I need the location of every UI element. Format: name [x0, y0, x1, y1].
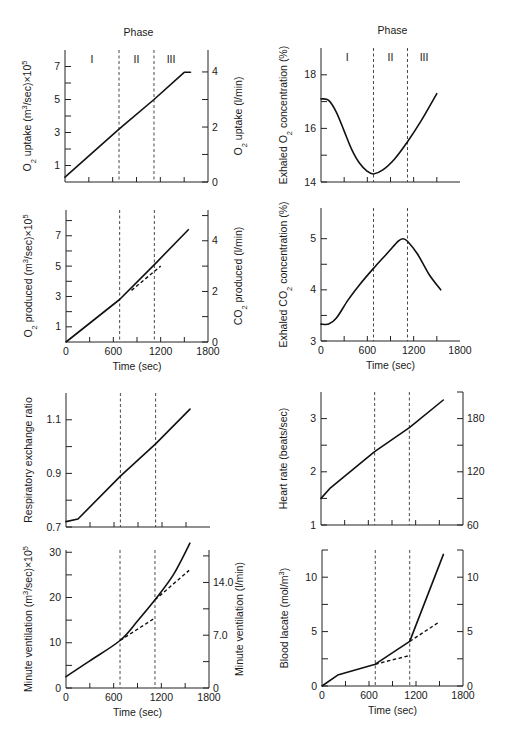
data-line [66, 409, 190, 521]
x-tick-label: 600 [105, 345, 123, 357]
y-axis-label: Respiratory exchange ratio [22, 397, 34, 523]
data-line [321, 94, 437, 174]
y-right-tick-label: 2 [212, 121, 218, 133]
chart-heart-rate: 12360120180Heart rate (beats/sec) [277, 392, 485, 531]
y-tick-label: 0 [311, 680, 317, 692]
x-axis-label: Time (sec) [368, 704, 417, 716]
x-tick-label: 600 [105, 691, 123, 703]
y-axis-label: O2 uptake (m3/sec)×105 [20, 61, 38, 172]
y-right-tick-label: 180 [467, 412, 485, 424]
y-axis-label: Heart rate (beats/sec) [277, 408, 289, 510]
data-line [66, 230, 188, 342]
data-line [321, 239, 441, 325]
phase-title: Phase [378, 24, 408, 36]
y-tick-label: 3 [310, 335, 316, 347]
y-tick-label: 5 [311, 625, 317, 637]
data-line [66, 543, 190, 676]
y-right-tick-label: 0 [212, 336, 218, 348]
chart-rer: 0.70.91.1Respiratory exchange ratio [22, 393, 210, 533]
y-tick-label: 1 [310, 519, 316, 531]
x-tick-label: 1200 [404, 689, 428, 701]
chart-minute-ventilation: 060012001800Time (sec)010203007.014.0Min… [21, 543, 246, 718]
y-right-tick-label: 2 [212, 285, 218, 297]
y-tick-label: 16 [304, 122, 316, 134]
y-right-tick-label: 5 [467, 625, 473, 637]
y-right-tick-label: 0 [467, 680, 473, 692]
extrapolation-line [132, 266, 161, 290]
x-tick-label: 0 [63, 691, 69, 703]
x-tick-label: 600 [360, 689, 378, 701]
extrapolation-line [155, 570, 189, 599]
x-tick-label: 0 [63, 345, 69, 357]
y-tick-label: 14 [304, 176, 316, 188]
x-tick-label: 600 [359, 344, 377, 356]
y-right-tick-label: 0 [213, 682, 219, 694]
y-right-tick-label: 0 [212, 176, 218, 188]
x-tick-label: 1200 [150, 691, 174, 703]
chart-exhaled-o2: 141618IIIIIIPhaseExhaled O2 concentratio… [277, 24, 460, 188]
y-right-tick-label: 14.0 [213, 576, 234, 588]
y-tick-label: 3 [54, 126, 60, 138]
x-tick-label: 0 [319, 689, 325, 701]
phase-label-I: I [346, 51, 349, 63]
x-tick-label: 1800 [448, 344, 472, 356]
y-right-tick-label: 120 [467, 465, 485, 477]
y-axis-label: O2 produced (m3/sec)×105 [21, 214, 39, 337]
phase-label-I: I [91, 53, 94, 65]
y-tick-label: 20 [49, 591, 61, 603]
phase-label-III: III [420, 51, 429, 63]
y-axis-right-label: CO2 produced (l/min) [232, 227, 249, 326]
chart-co2-produced: 060012001800Time (sec)1357024O2 produced… [21, 210, 249, 372]
y-axis-right-label: Minute ventilation (l/min) [233, 562, 245, 676]
y-tick-label: 5 [310, 232, 316, 244]
y-tick-label: 18 [304, 68, 316, 80]
y-right-tick-label: 4 [212, 65, 218, 77]
x-axis-label: Time (sec) [113, 706, 162, 718]
y-axis-label: Exhaled CO2 concentration (%) [277, 201, 294, 347]
y-tick-label: 1 [55, 320, 61, 332]
data-line [65, 72, 191, 177]
phase-title: Phase [124, 26, 154, 38]
chart-blood-lactate: 060012001800Time (sec)05100510Blood laca… [277, 550, 479, 716]
y-tick-label: 30 [49, 546, 61, 558]
y-right-tick-label: 60 [467, 519, 479, 531]
data-line [322, 554, 443, 686]
y-axis-right-label: O2 uptake (l/min) [232, 77, 249, 156]
y-tick-label: 3 [55, 290, 61, 302]
y-tick-label: 5 [54, 93, 60, 105]
y-tick-label: 7 [54, 60, 60, 72]
phase-label-III: III [167, 53, 176, 65]
y-tick-label: 5 [55, 260, 61, 272]
chart-exhaled-co2: 060012001800Time (sec)345Exhaled CO2 con… [277, 201, 472, 371]
y-tick-label: 1 [54, 159, 60, 171]
y-tick-label: 4 [310, 283, 316, 295]
y-axis-label: Exhaled O2 concentration (%) [277, 46, 294, 184]
physiology-exercise-figure: 1357024IIIIIIPhaseO2 uptake (m3/sec)×105… [0, 0, 506, 740]
y-tick-label: 10 [49, 636, 61, 648]
y-tick-label: 2 [310, 465, 316, 477]
y-tick-label: 0.9 [46, 467, 61, 479]
y-axis-label: Blood lacate (mol/m3) [277, 568, 291, 668]
data-line [321, 400, 443, 498]
x-axis-label: Time (sec) [366, 359, 415, 371]
y-right-tick-label: 4 [212, 234, 218, 246]
y-axis-label: Minute ventilation (m3/sec)×105 [21, 546, 35, 692]
y-tick-label: 0 [55, 682, 61, 694]
y-tick-label: 7 [55, 229, 61, 241]
phase-label-II: II [134, 53, 140, 65]
chart-o2-uptake: 1357024IIIIIIPhaseO2 uptake (m3/sec)×105… [20, 26, 249, 188]
phase-label-II: II [388, 51, 394, 63]
y-tick-label: 0.7 [46, 521, 61, 533]
y-right-tick-label: 10 [467, 571, 479, 583]
y-tick-label: 3 [310, 412, 316, 424]
y-tick-label: 1.1 [46, 413, 61, 425]
x-tick-label: 0 [318, 344, 324, 356]
x-tick-label: 1200 [149, 345, 173, 357]
x-tick-label: 1200 [402, 344, 426, 356]
x-axis-label: Time (sec) [112, 360, 161, 372]
y-tick-label: 10 [305, 571, 317, 583]
y-right-tick-label: 7.0 [213, 629, 228, 641]
